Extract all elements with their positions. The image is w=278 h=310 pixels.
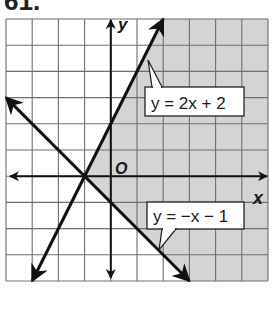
x-axis-label: x — [252, 188, 264, 208]
label-line1-text: y = 2x + 2 — [151, 94, 226, 113]
y-axis-label: y — [117, 15, 129, 34]
label-line2-text: y = −x − 1 — [153, 207, 228, 226]
coordinate-plane: yxOy = 2x + 2y = −x − 1 — [0, 0, 278, 310]
origin-label: O — [115, 160, 128, 177]
